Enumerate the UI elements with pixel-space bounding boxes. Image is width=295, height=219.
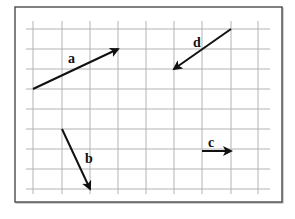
vector-grid-diagram: a b c d	[0, 0, 295, 219]
vector-a-label: a	[68, 51, 75, 66]
vector-d-label: d	[193, 35, 201, 50]
diagram-frame	[15, 7, 282, 202]
vector-c-label: c	[208, 135, 214, 150]
vector-b-label: b	[85, 151, 93, 166]
